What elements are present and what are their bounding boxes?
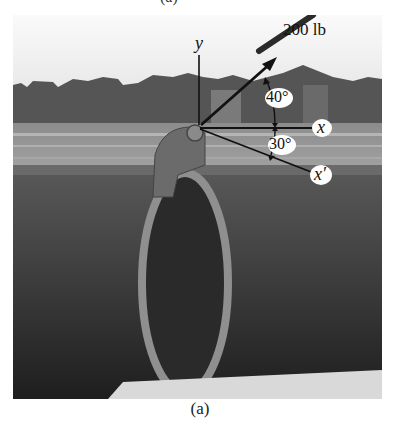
figure-caption: (a) (0, 399, 400, 419)
y-axis-label: y (195, 33, 203, 54)
force-label: 200 lb (283, 20, 326, 40)
x-prime-axis-label: x′ (314, 164, 326, 185)
clipped-caption-text: (a) (160, 0, 178, 6)
angle-30-label: 30° (269, 135, 291, 153)
clipped-previous-caption: (a) (0, 0, 400, 6)
pipe-end-opening (142, 173, 228, 393)
angle-40-label: 40° (266, 88, 288, 106)
figure-photo: y 200 lb 40° 30° x x′ (13, 15, 382, 399)
x-axis-label: x (317, 117, 325, 138)
